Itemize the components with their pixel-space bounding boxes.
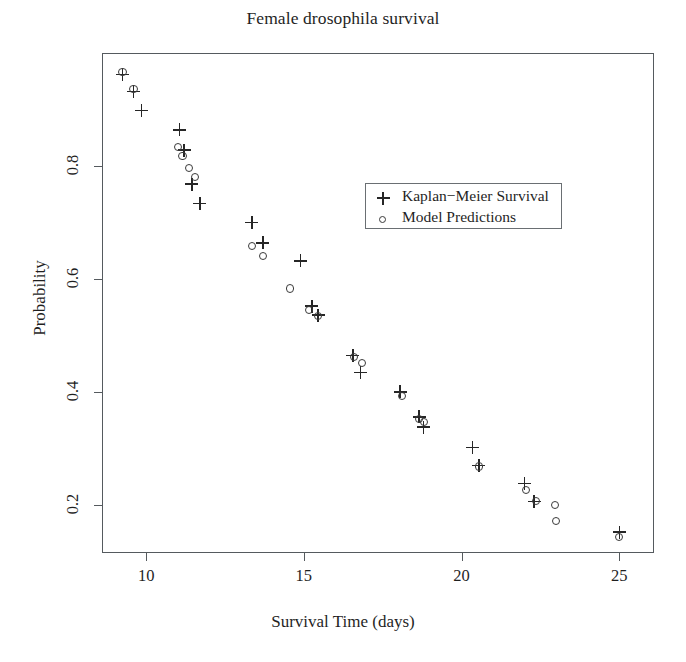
plot-title: Female drosophila survival <box>0 8 686 29</box>
data-point-model-prediction <box>118 68 126 76</box>
x-axis-tick-label: 25 <box>611 566 628 586</box>
data-point-model-prediction <box>248 242 256 250</box>
y-axis-label: Probability <box>30 218 50 378</box>
legend-item: Kaplan−Meier Survival <box>366 188 561 209</box>
y-axis-tick <box>94 166 102 167</box>
data-point-model-prediction <box>314 312 322 320</box>
x-axis-tick <box>146 553 147 561</box>
y-axis-tick-label: 0.4 <box>63 374 83 408</box>
data-point-model-prediction <box>259 252 267 260</box>
y-axis-tick-label: 0.2 <box>63 487 83 521</box>
legend-label: Model Predictions <box>402 208 516 226</box>
plot-data-area <box>102 53 654 553</box>
y-axis-tick-label: 0.8 <box>63 148 83 182</box>
x-axis-label: Survival Time (days) <box>0 612 686 632</box>
y-axis-tick <box>94 505 102 506</box>
data-point-model-prediction <box>129 85 137 93</box>
data-point-model-prediction <box>358 359 366 367</box>
data-point-model-prediction <box>350 353 358 361</box>
figure-canvas: Female drosophila survival 101520250.20.… <box>0 0 686 662</box>
x-axis-tick-label: 15 <box>296 566 313 586</box>
data-point-model-prediction <box>398 392 406 400</box>
data-point-model-prediction <box>475 462 483 470</box>
x-axis-tick <box>462 553 463 561</box>
x-axis-tick <box>619 553 620 561</box>
legend-item: Model Predictions <box>366 209 561 230</box>
chart-legend: Kaplan−Meier SurvivalModel Predictions <box>365 183 562 229</box>
legend-label: Kaplan−Meier Survival <box>402 187 549 205</box>
x-axis-tick-label: 10 <box>138 566 155 586</box>
y-axis-tick-label: 0.6 <box>63 261 83 295</box>
data-point-model-prediction <box>522 486 530 494</box>
data-point-model-prediction <box>420 418 428 426</box>
data-point-model-prediction <box>191 173 199 181</box>
data-point-model-prediction <box>305 306 313 314</box>
data-point-model-prediction <box>286 284 294 292</box>
legend-circle-icon <box>379 216 386 223</box>
data-point-model-prediction <box>551 501 559 509</box>
data-point-model-prediction <box>185 164 193 172</box>
data-point-model-prediction <box>615 533 623 541</box>
data-point-model-prediction <box>532 497 540 505</box>
x-axis-tick-label: 20 <box>453 566 470 586</box>
data-point-model-prediction <box>178 152 186 160</box>
data-point-model-prediction <box>552 517 560 525</box>
x-axis-tick <box>304 553 305 561</box>
y-axis-tick <box>94 392 102 393</box>
y-axis-tick <box>94 279 102 280</box>
